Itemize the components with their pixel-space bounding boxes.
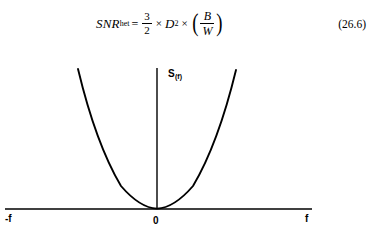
y-axis-label-subscript: (f)	[175, 73, 182, 81]
term-d: D	[165, 17, 175, 30]
x-axis-label-origin: 0	[153, 215, 159, 226]
x-axis-label-left: -f	[5, 213, 12, 224]
equation-expression: SNRhet = 3 2 × D2 × ( B W )	[96, 10, 224, 37]
figure-noise-spectral-density: S (f) -f 0 f	[0, 48, 384, 238]
term-d-exponent: 2	[175, 20, 179, 28]
multiplication-sign-1: ×	[156, 18, 162, 29]
coefficient-numerator: 3	[142, 11, 152, 23]
y-axis-label: S	[168, 68, 175, 79]
ratio-numerator: B	[202, 10, 213, 23]
equation-equals-sign: =	[132, 18, 139, 30]
paren-close: )	[217, 13, 223, 33]
equation-lhs-symbol: SNR	[96, 17, 120, 30]
equation-number: (26.6)	[338, 18, 366, 30]
paren-open: (	[192, 13, 198, 33]
multiplication-sign-2: ×	[182, 18, 188, 29]
equation-block: SNRhet = 3 2 × D2 × ( B W ) (26.6)	[0, 0, 384, 48]
ratio-denominator: W	[200, 24, 214, 37]
coefficient-denominator: 2	[142, 24, 152, 36]
parenthesized-ratio: ( B W )	[191, 10, 224, 37]
ratio-fraction: B W	[200, 10, 214, 37]
equation-coefficient-fraction: 3 2	[142, 11, 152, 36]
x-axis-label-right: f	[305, 213, 309, 224]
equation-lhs-subscript: het	[120, 20, 130, 28]
